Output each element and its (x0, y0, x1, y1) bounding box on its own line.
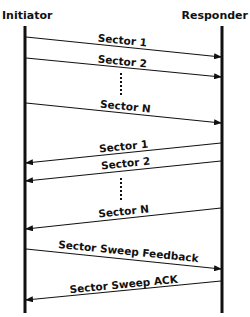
message-label: Sector 1 (97, 32, 147, 49)
message-label: Sector Sweep Feedback (58, 238, 200, 264)
message-sector-n-forward: Sector N (26, 97, 221, 123)
sequence-diagram: Initiator Responder Sector 1 Sector 2 Se… (0, 0, 250, 317)
responder-label: Responder (182, 9, 249, 22)
message-label: Sector 2 (97, 53, 147, 70)
message-label: Sector 1 (98, 138, 148, 155)
message-sector-sweep-feedback: Sector Sweep Feedback (26, 238, 221, 269)
message-sector-1-forward: Sector 1 (26, 32, 221, 57)
message-sector-sweep-ack: Sector Sweep ACK (26, 273, 221, 300)
message-sector-2-forward: Sector 2 (26, 53, 221, 77)
message-sector-n-backward: Sector N (26, 202, 221, 229)
message-label: Sector N (100, 97, 152, 114)
initiator-label: Initiator (2, 9, 53, 22)
message-label: Sector Sweep ACK (69, 273, 179, 296)
message-sector-2-backward: Sector 2 (26, 155, 221, 181)
